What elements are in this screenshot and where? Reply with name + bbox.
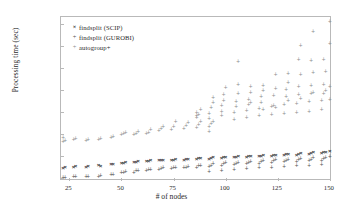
data-point: + [195, 109, 199, 115]
data-point: + [172, 165, 176, 171]
legend-marker-gurobi-icon: + [70, 34, 79, 40]
data-point: + [272, 93, 276, 99]
data-point: × [274, 151, 278, 157]
data-point: + [270, 160, 274, 166]
data-point: × [74, 163, 78, 169]
data-point: + [222, 92, 226, 98]
data-point: × [272, 152, 276, 158]
data-point: × [211, 154, 215, 160]
data-point: + [147, 129, 151, 135]
data-point: + [236, 91, 240, 97]
y-tick-mark [61, 112, 64, 113]
data-point: + [220, 113, 224, 119]
data-point: + [259, 100, 263, 106]
x-tick-mark [330, 178, 331, 181]
data-point: + [295, 163, 299, 169]
data-point: + [99, 136, 103, 142]
data-point: + [195, 165, 199, 171]
data-point: × [145, 158, 149, 164]
y-tick-mark [61, 46, 64, 47]
data-point: + [259, 159, 263, 165]
data-point: + [209, 121, 213, 127]
data-point: + [147, 167, 151, 173]
data-point: + [74, 174, 78, 180]
data-point: + [132, 131, 136, 137]
data-point: + [311, 29, 315, 35]
data-point: + [122, 169, 126, 175]
data-point: + [261, 158, 265, 164]
legend-item: + autogroup+ [70, 42, 134, 52]
data-point: + [320, 98, 324, 104]
data-point: + [299, 96, 303, 102]
data-point: + [222, 161, 226, 167]
data-point: + [224, 85, 228, 91]
data-point: + [245, 107, 249, 113]
plot-area: ××××××××××××××××××××××××××××××××××××××××… [60, 16, 331, 180]
data-point: + [247, 102, 251, 108]
data-point: + [220, 168, 224, 174]
data-point: × [120, 160, 124, 166]
data-point: + [97, 137, 101, 143]
data-point: + [309, 91, 313, 97]
data-point: + [232, 109, 236, 115]
data-point: + [232, 117, 236, 123]
data-point: + [245, 161, 249, 167]
data-point: × [286, 151, 290, 157]
data-point: + [197, 163, 201, 169]
data-point: + [324, 87, 328, 93]
data-point: + [307, 108, 311, 114]
data-point: + [111, 172, 115, 178]
data-point: + [322, 156, 326, 162]
data-point: × [186, 156, 190, 162]
y-tick-mark [61, 178, 64, 179]
data-point: + [245, 166, 249, 172]
data-point: + [297, 92, 301, 98]
data-point: + [236, 159, 240, 165]
y-tick-mark [61, 24, 64, 25]
data-point: + [186, 120, 190, 126]
data-point: + [272, 103, 276, 109]
data-point: + [211, 119, 215, 125]
data-point: + [236, 82, 240, 88]
data-point: + [257, 106, 261, 112]
data-point: × [170, 157, 174, 163]
data-point: + [207, 124, 211, 130]
data-point: + [211, 161, 215, 167]
data-point: + [159, 166, 163, 172]
data-point: + [120, 170, 124, 176]
data-point: + [145, 131, 149, 137]
data-point: + [272, 158, 276, 164]
x-tick-label: 50 [117, 185, 124, 192]
data-point: × [124, 159, 128, 165]
data-point: + [270, 104, 274, 110]
x-tick-label: 100 [220, 185, 230, 192]
y-tick-mark [61, 68, 64, 69]
data-point: + [274, 157, 278, 163]
chart-figure: Processing time (sec) 1 · 10−20.11101001… [0, 0, 343, 211]
data-point: + [161, 165, 165, 171]
data-point: + [134, 130, 138, 136]
data-point: × [284, 151, 288, 157]
x-tick-label: 125 [272, 185, 282, 192]
data-point: + [170, 166, 174, 172]
data-point: + [220, 163, 224, 169]
data-point: + [270, 165, 274, 171]
data-point: × [99, 163, 103, 169]
data-point: + [284, 94, 288, 100]
data-point: + [122, 131, 126, 137]
data-point: + [320, 158, 324, 164]
data-point: + [195, 125, 199, 131]
data-point: + [184, 165, 188, 171]
data-point: + [224, 160, 228, 166]
data-point: × [232, 154, 236, 160]
data-point: × [195, 156, 199, 162]
data-point: × [149, 157, 153, 163]
data-point: + [324, 69, 328, 75]
data-point: + [322, 56, 326, 62]
data-point: + [207, 111, 211, 117]
data-point: + [245, 115, 249, 121]
data-point: × [324, 149, 328, 155]
data-point: + [282, 111, 286, 117]
data-point: + [307, 158, 311, 164]
data-point: + [261, 87, 265, 93]
